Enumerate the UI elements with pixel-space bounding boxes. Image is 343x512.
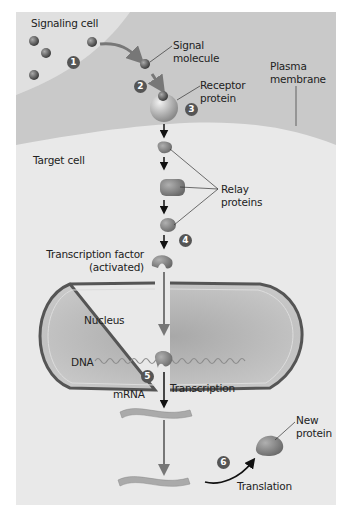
label-target-cell: Target cell <box>33 154 85 166</box>
label-plasma-2: membrane <box>270 73 326 85</box>
step-badge-5: 5 <box>141 370 154 383</box>
label-signal-molecule-2: molecule <box>173 52 219 64</box>
label-tf-2: (activated) <box>40 261 144 273</box>
label-tf-1: Transcription factor <box>40 248 144 260</box>
label-plasma-1: Plasma <box>270 60 307 72</box>
step-badge-3: 3 <box>185 103 198 116</box>
label-signal-molecule-1: Signal <box>173 39 204 51</box>
label-signaling-cell: Signaling cell <box>31 17 98 29</box>
step-badge-4: 4 <box>179 234 192 247</box>
cell-signaling-diagram: Signaling cell Signal molecule Receptor … <box>0 0 343 512</box>
relay-protein-2 <box>160 179 185 196</box>
step-badge-6: 6 <box>217 456 230 469</box>
label-nucleus: Nucleus <box>84 314 124 326</box>
nucleus <box>40 283 302 390</box>
step-badge-1: 1 <box>67 56 80 69</box>
label-relay-1: Relay <box>221 183 249 195</box>
relay-protein-3 <box>160 218 176 232</box>
label-relay-2: proteins <box>221 196 262 208</box>
label-new-protein-1: New <box>296 414 318 426</box>
label-new-protein-2: protein <box>296 427 332 439</box>
label-mrna: mRNA <box>113 388 145 400</box>
label-transcription: Transcription <box>170 382 235 394</box>
step-badge-2: 2 <box>134 80 147 93</box>
label-dna: DNA <box>71 356 94 368</box>
label-receptor-1: Receptor <box>200 79 245 91</box>
label-translation: Translation <box>237 480 292 492</box>
signal-molecule <box>140 59 150 69</box>
label-receptor-2: protein <box>200 92 236 104</box>
